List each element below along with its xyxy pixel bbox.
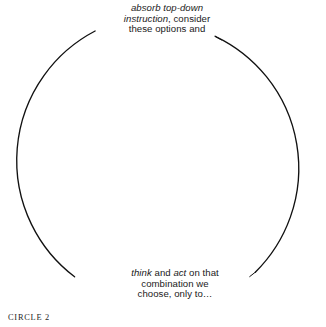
figure-caption: CIRCLE 2	[8, 313, 50, 322]
cycle-label-top-line2-italic: instruction	[124, 13, 168, 24]
figure-root: absorb top-down instruction, consider th…	[0, 0, 326, 327]
cycle-label-bottom-line1-italic-b: act	[173, 267, 186, 278]
arc-tip-bottom-right	[250, 272, 256, 276]
cycle-label-top: absorb top-down instruction, consider th…	[96, 3, 238, 35]
cycle-label-bottom-line1-italic-a: think	[131, 267, 152, 278]
cycle-label-bottom-line1: think and act on that	[104, 268, 246, 279]
circle-arc-right	[215, 36, 299, 272]
circle-arc-left	[17, 31, 95, 277]
cycle-label-bottom-line1-mid: and	[152, 267, 174, 278]
cycle-label-bottom: think and act on that combination we cho…	[104, 268, 246, 300]
cycle-label-bottom-line3: choose, only to…	[104, 289, 246, 300]
cycle-label-top-line1-italic: absorb top-down	[131, 2, 203, 13]
arc-tip-top-right	[215, 36, 221, 40]
cycle-label-top-line3: these options and	[96, 24, 238, 35]
cycle-label-bottom-line1-rest: on that	[186, 267, 218, 278]
cycle-label-top-line2-rest: , consider	[168, 13, 210, 24]
